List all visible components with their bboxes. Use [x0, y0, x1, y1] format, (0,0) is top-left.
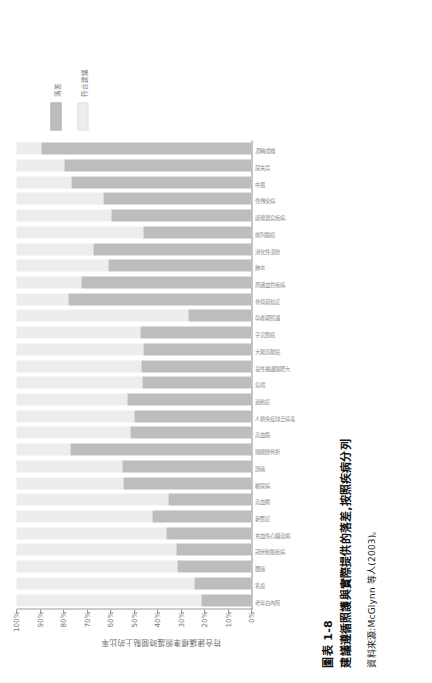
bar-segment-gap [103, 192, 251, 204]
category-label-text: 大腸直腸癌 [254, 349, 279, 354]
bar-segment-recommended [16, 410, 134, 422]
tick-label: 20% [200, 611, 209, 627]
category-label-text: 氣喘 [254, 382, 264, 387]
bar-segment-gap [141, 360, 251, 372]
category-label-text: 前列腺癌 [254, 232, 274, 237]
category-label-text: 消化性潰瘍 [254, 249, 279, 254]
bar-stack [16, 209, 251, 221]
category-label-cell: 性傳染病 [252, 190, 310, 207]
category-label-text: 良性攝護腺肥大 [254, 366, 289, 371]
bar-stack [16, 543, 251, 555]
bar-column [16, 407, 251, 424]
bar-series-group [16, 140, 251, 608]
bar-column [16, 491, 251, 508]
bar-segment-recommended [16, 560, 177, 572]
bar-stack [16, 460, 251, 472]
bar-segment-gap [177, 560, 251, 572]
category-label-cell: 子宮頸癌 [252, 324, 310, 341]
figure-source: 資料來源:McGlynn 等人(2003)。 [364, 14, 377, 667]
category-label-cell: 消化性潰瘍 [252, 240, 310, 257]
bar-segment-gap [201, 594, 251, 606]
category-label-text: 子宮頸癌 [254, 332, 274, 337]
bar-segment-gap [71, 176, 251, 188]
bar-segment-gap [127, 393, 251, 405]
tick-label: 10% [223, 611, 232, 627]
bar-segment-recommended [16, 510, 152, 522]
bar-stack [16, 376, 251, 388]
chart-legend: 落差 符合建議 [50, 22, 88, 130]
category-label-cell: 肺炎 [252, 257, 310, 274]
bar-stack [16, 176, 251, 188]
bar-stack [16, 259, 251, 271]
bar-column [16, 207, 251, 224]
bar-segment-recommended [16, 276, 81, 288]
bar-stack [16, 343, 251, 355]
bar-column [16, 575, 251, 592]
category-label-text: 肺炎 [254, 265, 264, 270]
bar-segment-recommended [16, 209, 111, 221]
bar-segment-recommended [16, 176, 71, 188]
category-label-text: 感覺器官疾病 [254, 215, 284, 220]
tick-label: 90% [35, 611, 44, 627]
rotated-figure-stage: 100%90%80%70%60%50%40%30%20%10%0% 老年白內障乳… [0, 0, 432, 683]
bar-column [16, 324, 251, 341]
category-label-cell: 乳癌 [252, 575, 310, 592]
category-label-text: 過動症 [254, 399, 269, 404]
bar-stack [16, 560, 251, 572]
category-label-text: 乳癌 [254, 583, 264, 588]
bar-column [16, 357, 251, 374]
category-labels: 老年白內障乳癌腰痛冠狀動脈疾病充血性心臟衰竭憂鬱症高血壓糖尿病頭痛髖關節骨折高血… [252, 140, 310, 608]
bar-stack [16, 577, 251, 589]
light-gray-swatch-icon [77, 102, 88, 130]
category-label-text: 酒精成癮 [254, 148, 274, 153]
bar-segment-recommended [16, 426, 130, 438]
bar-column [16, 474, 251, 491]
bar-stack [16, 594, 251, 606]
bar-segment-gap [176, 543, 251, 555]
category-label-cell: 尿失禁 [252, 157, 310, 174]
legend-label-gap: 落差 [51, 82, 61, 96]
figure-number: 圖表 1-8 [318, 14, 334, 667]
category-label-cell: 大腸直腸癌 [252, 341, 310, 358]
category-label-text: 腰痛 [254, 566, 264, 571]
dark-gray-swatch-icon [50, 102, 61, 130]
category-label-cell: 頭痛 [252, 458, 310, 475]
bar-stack [16, 393, 251, 405]
legend-label-recommended: 符合建議 [78, 68, 88, 96]
bar-column [16, 591, 251, 608]
figure-caption: 圖表 1-8 建議遵循照護與實際提供的落差,按照疾病分列 資料來源:McGlyn… [318, 14, 377, 667]
bar-stack [16, 493, 251, 505]
bar-column [16, 391, 251, 408]
tick-label: 40% [153, 611, 162, 627]
bar-column [16, 424, 251, 441]
bar-column [16, 190, 251, 207]
bar-segment-recommended [16, 376, 142, 388]
category-label-text: 孕產期照護 [254, 315, 279, 320]
bar-column [16, 441, 251, 458]
tick-label: 30% [176, 611, 185, 627]
category-label-cell: 人類免疫缺乏病毒 [252, 407, 310, 424]
bar-column [16, 558, 251, 575]
bar-segment-gap [130, 426, 251, 438]
bar-segment-gap [93, 243, 251, 255]
tick-label: 70% [82, 611, 91, 627]
bar-segment-recommended [16, 527, 166, 539]
category-label-cell: 中風 [252, 173, 310, 190]
bar-stack [16, 226, 251, 238]
bar-column [16, 140, 251, 157]
bar-segment-recommended [16, 460, 122, 472]
category-label-cell: 過動症 [252, 391, 310, 408]
bar-segment-gap [168, 493, 251, 505]
bar-segment-recommended [16, 543, 176, 555]
bar-segment-gap [188, 309, 251, 321]
category-label-cell: 髖關節骨折 [252, 441, 310, 458]
bar-stack [16, 276, 251, 288]
category-label-cell: 感覺器官疾病 [252, 207, 310, 224]
bar-segment-recommended [16, 594, 201, 606]
bar-column [16, 458, 251, 475]
legend-item-recommended: 符合建議 [77, 22, 88, 130]
legend-item-gap: 落差 [50, 22, 61, 130]
bar-stack [16, 192, 251, 204]
bar-segment-gap [111, 209, 251, 221]
bar-segment-gap [122, 460, 251, 472]
